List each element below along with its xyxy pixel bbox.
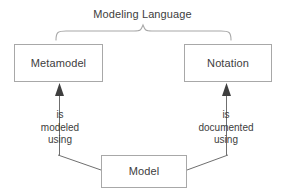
node-notation-label: Notation <box>207 58 249 69</box>
edge-line-right-diagonal <box>187 155 228 170</box>
node-model-label: Model <box>129 166 159 177</box>
edge-label-right-line-1: is <box>180 109 272 122</box>
node-notation[interactable]: Notation <box>184 44 272 82</box>
edge-label-is-documented-using: is documented using <box>180 109 272 147</box>
diagram-canvas: Modeling Language Metamodel Notation Mod… <box>0 0 285 195</box>
edge-label-left-line-3: using <box>15 134 105 147</box>
arrowhead-up-right-icon <box>222 83 231 96</box>
group-brace-label: Modeling Language <box>0 8 285 20</box>
edge-label-left-line-2: modeled <box>15 122 105 135</box>
edge-label-is-modeled-using: is modeled using <box>15 109 105 147</box>
node-model[interactable]: Model <box>101 155 187 188</box>
edge-label-right-line-3: using <box>180 134 272 147</box>
arrowhead-up-left-icon <box>55 83 64 96</box>
edge-label-right-line-2: documented <box>180 122 272 135</box>
edge-line-left-diagonal <box>58 155 101 170</box>
edge-label-left-line-1: is <box>15 109 105 122</box>
group-brace-icon <box>56 25 231 40</box>
node-metamodel[interactable]: Metamodel <box>14 44 103 82</box>
node-metamodel-label: Metamodel <box>31 58 86 69</box>
